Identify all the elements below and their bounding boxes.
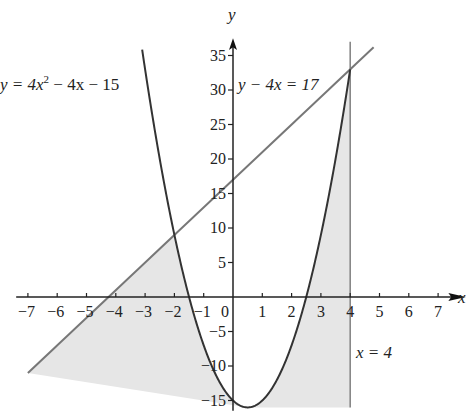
y-tick-label: 30 — [210, 81, 226, 98]
y-axis-label: y — [226, 5, 236, 24]
x-tick-label: 7 — [434, 303, 442, 320]
y-tick-label: −10 — [201, 357, 226, 374]
y-tick-label: 35 — [210, 47, 226, 64]
chart: −7−6−5−4−3−2−101234567−15−10−55101520253… — [0, 0, 474, 415]
parabola-eq-prefix: y = 4x — [0, 75, 44, 94]
x-tick-label: −5 — [77, 303, 94, 320]
parabola-equation-label: y = 4x2 − 4x − 15 — [0, 73, 119, 94]
y-tick-label: 25 — [210, 116, 226, 133]
line-equation-label: y − 4x = 17 — [236, 75, 320, 94]
x-tick-label: −4 — [106, 303, 123, 320]
y-tick-label: −15 — [201, 392, 226, 409]
x-tick-label: 1 — [258, 303, 266, 320]
x-tick-label: 3 — [317, 303, 325, 320]
x-tick-label: 4 — [346, 303, 354, 320]
shaded-region — [28, 69, 350, 407]
x-tick-label: −7 — [18, 303, 35, 320]
x-tick-label: 5 — [376, 303, 384, 320]
y-tick-label: 5 — [218, 254, 226, 271]
x-tick-label: 2 — [288, 303, 296, 320]
shaded-region-left — [28, 235, 248, 408]
x-tick-label: −2 — [164, 303, 181, 320]
x-tick-label: −1 — [194, 303, 211, 320]
x-tick-label: −6 — [47, 303, 64, 320]
x-tick-label: 0 — [221, 303, 229, 320]
y-tick-label: 20 — [210, 150, 226, 167]
vertical-line-equation-label: x = 4 — [355, 343, 393, 362]
y-tick-label: −5 — [209, 323, 226, 340]
shaded-region-right — [248, 69, 351, 407]
x-tick-label: −3 — [135, 303, 152, 320]
y-tick-label: 15 — [210, 185, 226, 202]
x-tick-label: 6 — [405, 303, 413, 320]
y-tick-label: 10 — [210, 219, 226, 236]
x-axis-label: x — [457, 288, 466, 307]
parabola-eq-suffix: − 4x − 15 — [49, 75, 119, 94]
